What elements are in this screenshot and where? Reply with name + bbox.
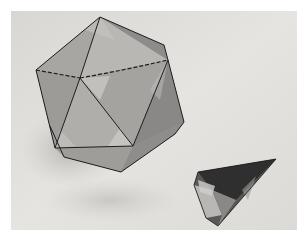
photograph <box>11 11 297 230</box>
photo-scene <box>11 11 297 230</box>
ground-shadow <box>40 178 180 222</box>
photo-frame <box>0 0 308 241</box>
